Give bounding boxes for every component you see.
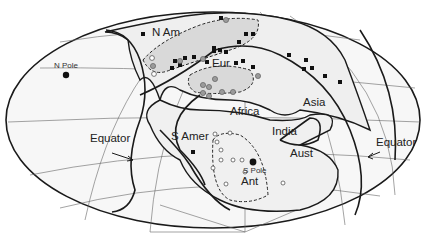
label-europe: Eur — [212, 58, 230, 70]
label-antarctica: Ant — [241, 176, 258, 188]
label-africa: Africa — [230, 106, 259, 118]
label-equator-right: Equator — [376, 137, 416, 149]
label-north-pole: N Pole — [54, 62, 78, 70]
label-asia: Asia — [303, 97, 325, 109]
north-pole-marker — [63, 72, 69, 78]
label-north-america: N Am — [152, 27, 180, 39]
label-australia: Aust — [290, 148, 313, 160]
south-pole-marker — [250, 159, 257, 166]
paleogeographic-map — [0, 0, 427, 236]
label-india: India — [272, 126, 297, 138]
label-equator-left: Equator — [90, 133, 130, 145]
label-south-america: S Amer — [171, 131, 209, 143]
label-south-pole: S Pole — [243, 167, 267, 175]
